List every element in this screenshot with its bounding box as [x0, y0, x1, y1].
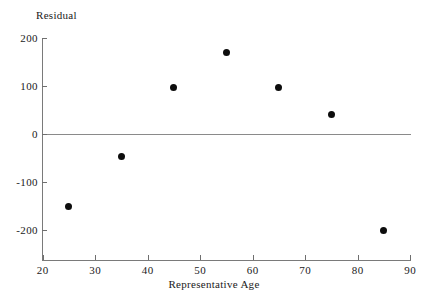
- x-tick-mark: [305, 255, 306, 260]
- x-tick-label: 90: [395, 265, 425, 276]
- data-point: [275, 84, 282, 91]
- y-tick-label-text: -100: [4, 177, 38, 188]
- zero-reference-line: [42, 134, 411, 135]
- x-tick-mark: [148, 255, 149, 260]
- data-point: [223, 49, 230, 56]
- x-axis-line: [42, 260, 411, 261]
- y-tick-label: 0: [0, 129, 38, 140]
- x-axis-title: Representative Age: [0, 278, 428, 290]
- y-tick-label: -100: [0, 177, 38, 188]
- residual-scatter-plot: Residual 2001000-100-200 203040506070809…: [0, 0, 428, 297]
- x-tick-label: 70: [290, 265, 320, 276]
- x-tick-mark: [43, 255, 44, 260]
- y-tick-label-text: 100: [4, 81, 38, 92]
- data-point: [328, 111, 335, 118]
- x-tick-label: 80: [343, 265, 373, 276]
- y-tick-mark: [42, 230, 47, 231]
- y-axis-title: Residual: [36, 9, 77, 21]
- y-tick-label-text: -200: [4, 225, 38, 236]
- x-tick-mark: [410, 255, 411, 260]
- data-point: [65, 203, 72, 210]
- y-tick-mark: [42, 134, 47, 135]
- x-tick-mark: [253, 255, 254, 260]
- data-point: [118, 153, 125, 160]
- x-tick-label: 20: [28, 265, 58, 276]
- y-tick-label: -200: [0, 225, 38, 236]
- data-point: [380, 227, 387, 234]
- y-tick-label: 100: [0, 81, 38, 92]
- x-tick-label: 40: [133, 265, 163, 276]
- x-tick-mark: [358, 255, 359, 260]
- y-tick-label: 200: [0, 33, 38, 44]
- y-axis-line: [42, 38, 43, 261]
- x-tick-mark: [95, 255, 96, 260]
- x-tick-label: 50: [185, 265, 215, 276]
- y-tick-mark: [42, 38, 47, 39]
- y-tick-mark: [42, 182, 47, 183]
- data-point: [170, 84, 177, 91]
- y-tick-label-text: 200: [4, 33, 38, 44]
- x-tick-label: 60: [238, 265, 268, 276]
- x-tick-label: 30: [80, 265, 110, 276]
- y-tick-mark: [42, 86, 47, 87]
- x-tick-mark: [200, 255, 201, 260]
- y-tick-label-text: 0: [4, 129, 38, 140]
